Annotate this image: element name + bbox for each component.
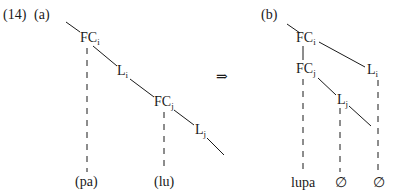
b-leaf-lupa: lupa <box>291 176 315 190</box>
a-leaf-lu: (lu) <box>154 175 174 189</box>
a-node-li: Li <box>117 64 128 78</box>
panel-b-label: (b) <box>261 8 277 22</box>
b-edge-fci-li <box>319 42 365 67</box>
a-edge-fcj-lj <box>174 110 194 125</box>
a-node-fci: FCi <box>80 31 100 45</box>
a-leaf-pa: (pa) <box>75 175 98 189</box>
b-edge-fcj-lj <box>318 78 336 95</box>
b-edge-lj-end <box>349 106 371 126</box>
derivation-arrow-icon: ⇒ <box>216 70 228 84</box>
a-node-lj: Lj <box>195 123 206 137</box>
a-edge-top-fci <box>66 22 80 32</box>
b-node-fci: FCi <box>296 31 316 45</box>
b-node-fcj: FCj <box>296 62 316 76</box>
a-edge-li-fcj <box>130 79 154 97</box>
panel-a-label: (a) <box>34 8 50 22</box>
b-leaf-empty-1: ∅ <box>335 176 347 190</box>
b-node-lj: Lj <box>337 93 348 107</box>
tree-diagram-lines <box>0 0 394 192</box>
a-node-fcj: FCj <box>154 95 174 109</box>
b-node-li: Li <box>367 63 378 77</box>
a-edge-fci-li <box>93 46 117 66</box>
b-leaf-empty-2: ∅ <box>373 176 385 190</box>
example-number: (14) <box>3 8 26 22</box>
a-edge-lj-end <box>207 138 224 155</box>
